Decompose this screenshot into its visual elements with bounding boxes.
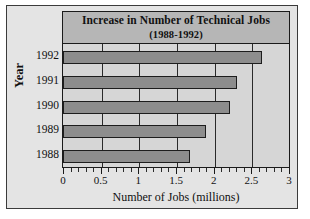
x-tick-minor	[71, 168, 72, 172]
x-tick-label: 2	[211, 174, 217, 186]
x-tick-minor	[131, 168, 132, 172]
x-tick-minor	[161, 168, 162, 172]
y-axis-title: Year	[12, 63, 27, 88]
x-tick-minor	[266, 168, 267, 172]
x-tick-minor	[191, 168, 192, 172]
x-tick-minor	[116, 168, 117, 172]
x-tick-minor	[199, 168, 200, 172]
bar-row	[63, 76, 291, 89]
x-tick-minor	[78, 168, 79, 172]
bar-1990	[63, 101, 230, 114]
x-tick-minor	[93, 168, 94, 172]
bar-1991	[63, 76, 237, 89]
x-tick-minor	[221, 168, 222, 172]
bar-row	[63, 101, 291, 114]
x-tick-minor	[236, 168, 237, 172]
chart-subtitle: (1988-1992)	[63, 28, 289, 41]
x-tick-label: 1	[136, 174, 142, 186]
plot-area	[62, 44, 290, 168]
x-tick-minor	[184, 168, 185, 172]
x-tick-minor	[153, 168, 154, 172]
y-axis-tick-labels: 19921991199019891988	[0, 44, 59, 168]
x-tick-label: 2.5	[244, 174, 258, 186]
x-tick-minor	[108, 168, 109, 172]
bar-row	[63, 125, 291, 138]
chart-title-box: Increase in Number of Technical Jobs (19…	[62, 11, 290, 44]
bar-row	[63, 150, 291, 163]
x-tick-minor	[229, 168, 230, 172]
x-tick-minor	[244, 168, 245, 172]
x-tick-label: 0.5	[94, 174, 108, 186]
x-tick-minor	[146, 168, 147, 172]
y-tick-label-1988: 1988	[36, 148, 59, 160]
bar-1989	[63, 125, 206, 138]
y-tick-label-1991: 1991	[36, 74, 59, 86]
x-tick-minor	[259, 168, 260, 172]
bar-1992	[63, 51, 262, 64]
x-tick-minor	[206, 168, 207, 172]
chart-title: Increase in Number of Technical Jobs	[63, 13, 289, 28]
x-axis-title: Number of Jobs (millions)	[62, 190, 290, 205]
bar-row	[63, 51, 291, 64]
x-tick-minor	[274, 168, 275, 172]
y-tick-label-1989: 1989	[36, 123, 59, 135]
y-tick-label-1992: 1992	[36, 49, 59, 61]
x-tick-label: 1.5	[169, 174, 183, 186]
x-tick-label: 0	[60, 174, 66, 186]
x-tick-minor	[123, 168, 124, 172]
x-tick-minor	[86, 168, 87, 172]
x-tick-minor	[168, 168, 169, 172]
x-tick-label: 3	[286, 174, 292, 186]
y-tick-label-1990: 1990	[36, 99, 59, 111]
chart-figure: Increase in Number of Technical Jobs (19…	[0, 0, 310, 219]
x-tick-minor	[281, 168, 282, 172]
bar-1988	[63, 150, 190, 163]
